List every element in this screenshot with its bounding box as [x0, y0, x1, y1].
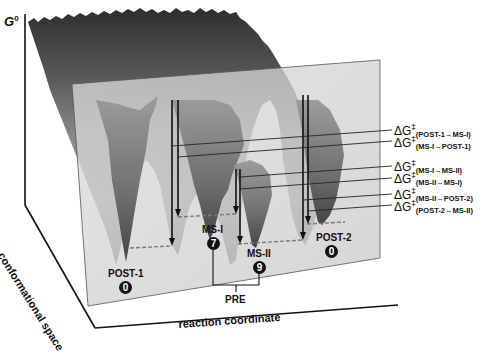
barrier-label-msii-msi: ΔG‡(MS-II→MS-I)	[394, 170, 462, 187]
group-label-pre: PRE	[225, 294, 246, 305]
state-count-post-1: 0	[119, 281, 132, 294]
state-label-post-2: POST-2	[316, 232, 352, 243]
state-label-ms-i: MS-I	[202, 224, 223, 235]
state-count-ms-ii: 9	[253, 261, 266, 274]
delta-g-symbol: ΔG	[394, 136, 411, 150]
delta-g-symbol: ΔG	[394, 172, 411, 186]
delta-g-symbol: ΔG	[394, 200, 411, 214]
energy-axis-superscript: 0	[14, 14, 18, 23]
barrier-subscript: (POST-2→MS-II)	[416, 206, 473, 215]
barrier-subscript: (MS-I→POST-1)	[416, 142, 471, 151]
barrier-label-post2-msii: ΔG‡(POST-2→MS-II)	[394, 198, 473, 215]
barrier-label-msi-post1: ΔG‡(MS-I→POST-1)	[394, 134, 471, 151]
state-count-ms-i: 7	[207, 237, 220, 250]
state-label-ms-ii: MS-II	[247, 248, 271, 259]
energy-axis-symbol: G	[4, 14, 14, 29]
energy-axis-label: G0	[4, 14, 19, 29]
state-label-post-1: POST-1	[108, 268, 144, 279]
state-count-post-2: 0	[325, 245, 338, 258]
